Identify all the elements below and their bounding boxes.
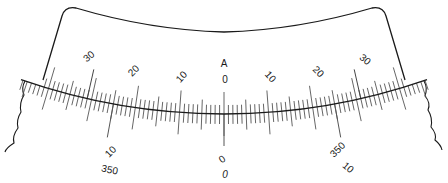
scale-diagram: A 30 20 10 0 10 20 30 10 0 350 350 0 10 xyxy=(0,0,448,183)
lower-row1-left-label: 10 xyxy=(103,143,119,159)
cover-plate-outline xyxy=(43,8,405,80)
upper-label-left-20: 20 xyxy=(126,62,142,78)
upper-label-right-10: 10 xyxy=(263,69,279,85)
lower-row2-left-label: 350 xyxy=(100,162,119,176)
lower-row2-right-label: 10 xyxy=(340,160,356,176)
upper-label-left-30: 30 xyxy=(81,48,97,64)
upper-label-left-10: 10 xyxy=(174,69,190,85)
upper-label-right-20: 20 xyxy=(311,64,327,80)
scale-drawing: A 30 20 10 0 10 20 30 10 0 350 350 0 10 xyxy=(0,0,448,183)
lower-row1-center-label: 0 xyxy=(217,153,228,165)
index-mark-label: A xyxy=(221,58,228,69)
left-torn-edge xyxy=(5,81,25,152)
lower-row1-right-label: 350 xyxy=(328,139,348,159)
right-torn-edge xyxy=(424,81,442,150)
lower-row2-center-label: 0 xyxy=(222,169,228,180)
upper-label-right-30: 30 xyxy=(357,52,373,68)
upper-label-center-0: 0 xyxy=(222,74,228,85)
